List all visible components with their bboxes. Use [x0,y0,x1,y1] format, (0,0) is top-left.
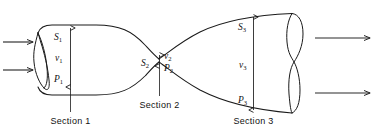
section-3-area-label: S3 [238,22,247,33]
section-2-pressure-label: P2 [163,63,173,74]
venturi-duct-figure: S1 v1 P1 Section 1 S2 v2 P2 Section 2 S3… [0,0,376,136]
section-3-velocity-label: v3 [239,60,247,71]
section-1-velocity-label: v1 [55,53,63,64]
section-2-caption: Section 2 [139,100,179,110]
section-1-pressure-label: P1 [53,74,63,85]
section-2-velocity-label: v2 [164,51,172,62]
section-3-caption: Section 3 [233,116,273,126]
section-2-area-label: S2 [141,58,149,69]
duct-diagram-svg: S1 v1 P1 Section 1 S2 v2 P2 Section 2 S3… [0,0,376,136]
outlet-rim-front [289,14,303,114]
section-1-area-label: S1 [54,32,62,43]
section-3-pressure-label: P3 [237,95,248,106]
inlet-rim-back [38,33,47,88]
section-1-caption: Section 1 [50,116,90,126]
duct-upper-wall-diverging [159,14,292,60]
